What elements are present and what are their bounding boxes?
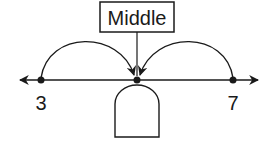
point-label-3: 3: [35, 92, 46, 114]
middle-label-box: Middle: [100, 2, 174, 32]
point-middle: [134, 77, 141, 84]
point-7: [230, 77, 237, 84]
middle-label: Middle: [108, 7, 167, 29]
point-3: [38, 77, 45, 84]
answer-box[interactable]: [115, 85, 159, 137]
left-jump-arc: [41, 42, 134, 78]
right-jump-arc: [140, 42, 233, 78]
point-label-7: 7: [227, 92, 238, 114]
number-line-diagram: Middle 3 7: [0, 0, 272, 154]
